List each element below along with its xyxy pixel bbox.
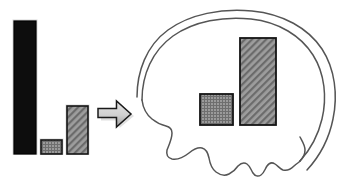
brain-bar-1-body [200, 94, 233, 125]
bar-2 [40, 139, 64, 155]
brain-bar-2 [240, 38, 276, 125]
figure-root [0, 0, 345, 188]
brain-bar-1 [200, 94, 233, 125]
bar-1-body [14, 21, 36, 154]
bar-2-body [41, 140, 62, 154]
bar-1 [13, 20, 38, 155]
bar-3-body [67, 106, 88, 154]
bar-3 [66, 105, 90, 155]
figure-canvas [0, 0, 345, 188]
brain-bar-2-body [240, 38, 276, 125]
